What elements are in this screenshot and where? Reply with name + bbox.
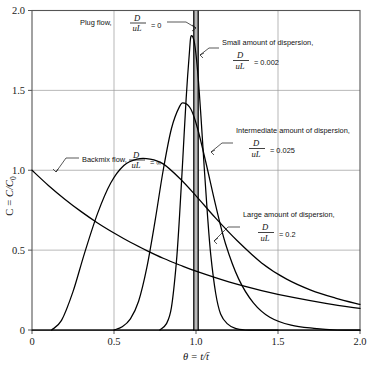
- y-title-c: C: [4, 209, 15, 216]
- y-title-frac: C/C: [4, 179, 15, 197]
- x-title-eq: =: [191, 351, 197, 362]
- x-title-theta: θ: [183, 351, 188, 362]
- annotation-backmix-flow-numerator: D: [132, 150, 140, 160]
- x-axis-title: θ=t/t̄: [183, 351, 210, 362]
- annotation-plug-flow-numerator: D: [133, 13, 141, 23]
- y-tick-label-1.0: 1.0: [12, 165, 25, 176]
- annotation-small-dispersion-value: = 0.002: [254, 58, 279, 67]
- y-tick-label-1.5: 1.5: [12, 85, 25, 96]
- annotation-plug-flow-text: Plug flow,: [80, 18, 112, 27]
- annotation-plug-flow-denominator: uL: [132, 23, 141, 33]
- annotation-large-dispersion-text: Large amount of dispersion,: [243, 210, 335, 219]
- y-title-eq: =: [4, 200, 15, 206]
- x-title-frac: t/t̄: [200, 351, 210, 362]
- annotation-small-dispersion-denominator: uL: [235, 61, 244, 71]
- y-tick-label-0.5: 0.5: [12, 245, 25, 256]
- annotation-large-dispersion-numerator: D: [261, 222, 269, 232]
- annotation-backmix-flow-text: Backmix flow,: [82, 155, 127, 164]
- y-tick-label-2.0: 2.0: [12, 5, 25, 16]
- x-tick-label-0: 0: [29, 336, 34, 347]
- annotation-intermediate-dispersion-denominator: uL: [251, 149, 260, 159]
- annotation-backmix-flow-denominator: uL: [131, 160, 140, 170]
- annotation-small-dispersion-text: Small amount of dispersion,: [222, 38, 313, 47]
- annotation-large-dispersion-value: = 0.2: [279, 230, 296, 239]
- annotation-intermediate-dispersion-value: = 0.025: [270, 146, 295, 155]
- x-tick-label-1.0: 1.0: [189, 336, 202, 347]
- y-tick-label-0: 0: [20, 325, 25, 336]
- annotation-plug-flow-value: = 0: [151, 21, 161, 30]
- annotation-intermediate-dispersion-text: Intermediate amount of dispersion,: [236, 126, 350, 135]
- annotation-intermediate-dispersion-numerator: D: [252, 138, 260, 148]
- x-tick-label-2.0: 2.0: [353, 336, 366, 347]
- annotation-small-dispersion-numerator: D: [236, 50, 244, 60]
- chart-figure: 00.51.01.52.0 00.51.01.52.0 Plug flow, D…: [0, 0, 374, 372]
- annotation-large-dispersion-denominator: uL: [260, 233, 269, 243]
- x-tick-label-1.5: 1.5: [271, 336, 284, 347]
- annotation-backmix-flow-value: = ∞: [150, 158, 162, 167]
- dispersion-c-curve-chart: 00.51.01.52.0 00.51.01.52.0 Plug flow, D…: [0, 0, 374, 372]
- x-tick-label-0.5: 0.5: [107, 336, 120, 347]
- y-title-sub: 0: [9, 176, 18, 180]
